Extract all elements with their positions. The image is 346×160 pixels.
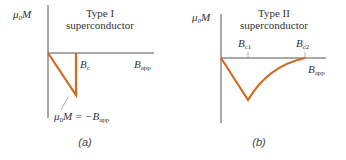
panel-b-caption: (b) xyxy=(252,136,266,148)
panel-a-magnetization-curve xyxy=(48,53,76,95)
panel-a-y-axis-label: μ0M xyxy=(12,8,32,22)
panel-a-title-line2: superconductor xyxy=(66,19,134,31)
panel-b-bc1-label: Bc1 xyxy=(238,37,252,51)
panel-a-annotation-leader-line xyxy=(61,97,68,110)
panel-b-magnetization-curve xyxy=(221,58,305,100)
panel-b-x-axis-label: Bapp xyxy=(308,63,325,77)
panel-b-title-line1: Type II xyxy=(258,7,290,19)
panel-a-caption: (a) xyxy=(78,136,92,148)
panel-a-x-axis-label: Bapp xyxy=(134,58,151,72)
panel-b-bc2-label: Bc2 xyxy=(296,37,310,51)
panel-a-annotation: μ0M = −Bapp xyxy=(53,110,110,124)
panel-a-bc-label: Bc xyxy=(80,58,90,72)
panel-b-title-line2: superconductor xyxy=(240,19,308,31)
superconductor-magnetization-diagram: μ0M Type I superconductor Bc Bapp μ0M = … xyxy=(0,0,346,160)
panel-a: μ0M Type I superconductor Bc Bapp μ0M = … xyxy=(12,5,154,148)
panel-a-title-line1: Type I xyxy=(86,7,115,19)
panel-b: μ0M Type II superconductor Bc1 Bc2 Bapp … xyxy=(191,7,326,148)
panel-b-y-axis-label: μ0M xyxy=(191,11,211,25)
